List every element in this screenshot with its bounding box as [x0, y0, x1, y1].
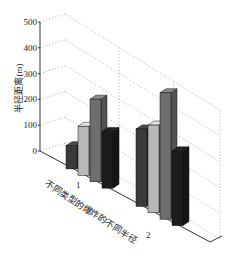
y-tick-label: 200 [24, 94, 38, 104]
y-axis-label: 半径距离(m) [13, 64, 24, 113]
y-tick-labels: 0100200300400500 [24, 17, 38, 156]
y-tick-label: 400 [24, 43, 38, 53]
bar [172, 147, 189, 226]
bar-chart-3d: 0100200300400500 半径距离(m) 不同类型的爆炸的不同半径 1 … [0, 0, 225, 274]
y-tick-label: 300 [24, 69, 38, 79]
y-tick-label: 0 [33, 146, 38, 156]
y-tick-label: 100 [24, 120, 38, 130]
y-tick-label: 500 [24, 17, 38, 27]
bar [102, 127, 119, 188]
gridlines [40, 14, 220, 239]
x-category-label-2: 2 [146, 230, 151, 240]
x-axis-label: 不同类型的爆炸的不同半径 [43, 177, 140, 245]
axes [38, 22, 222, 242]
x-category-label-1: 1 [76, 180, 81, 190]
